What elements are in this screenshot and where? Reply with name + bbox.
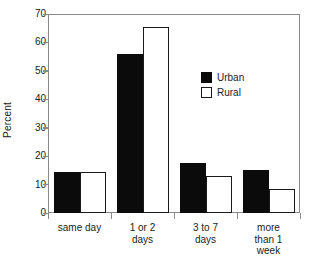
bar-rural-2 xyxy=(206,176,232,213)
x-axis-label-1: 1 or 2days xyxy=(111,222,174,245)
x-axis-label-line: days xyxy=(174,234,237,246)
x-axis-label-line: 1 or 2 xyxy=(111,222,174,234)
x-axis-label-line: 3 to 7 xyxy=(174,222,237,234)
bar-urban-0 xyxy=(54,172,80,213)
legend-label-urban: Urban xyxy=(217,72,244,83)
x-axis-label-2: 3 to 7days xyxy=(174,222,237,245)
y-axis-tick-label: 70 xyxy=(0,8,46,20)
x-axis-tick-mark xyxy=(237,213,238,219)
y-axis-tick-label: 30 xyxy=(0,122,46,134)
bar-urban-3 xyxy=(243,170,269,213)
x-axis-tick-mark xyxy=(111,213,112,219)
x-axis-label-line: days xyxy=(111,234,174,246)
x-axis-tick-mark xyxy=(300,213,301,219)
legend-swatch-rural-icon xyxy=(201,87,212,98)
legend: Urban Rural xyxy=(201,71,244,101)
legend-item-rural: Rural xyxy=(201,86,244,99)
x-axis-label-line: week xyxy=(237,245,300,257)
x-axis-label-3: morethan 1week xyxy=(237,222,300,257)
y-axis-tick-label: 60 xyxy=(0,36,46,48)
y-axis-tick-label: 20 xyxy=(0,150,46,162)
y-axis-tick-label: 50 xyxy=(0,65,46,77)
legend-label-rural: Rural xyxy=(217,87,241,98)
bar-urban-1 xyxy=(117,54,143,213)
x-axis-tick-mark xyxy=(174,213,175,219)
x-axis-label-line: same day xyxy=(48,222,111,234)
bars-layer xyxy=(48,14,300,213)
x-axis-label-line: than 1 xyxy=(237,234,300,246)
bar-rural-1 xyxy=(143,27,169,213)
y-axis-tick-label: 10 xyxy=(0,179,46,191)
x-axis-label-0: same day xyxy=(48,222,111,234)
bar-chart: Percent 010203040506070 same day1 or 2da… xyxy=(0,0,330,264)
legend-item-urban: Urban xyxy=(201,71,244,84)
bar-urban-2 xyxy=(180,163,206,213)
y-axis-tick-label: 40 xyxy=(0,93,46,105)
bar-rural-3 xyxy=(269,189,295,213)
y-axis-tick-label: 0 xyxy=(0,207,46,219)
bar-rural-0 xyxy=(80,172,106,213)
legend-swatch-urban-icon xyxy=(201,72,212,83)
x-axis-label-line: more xyxy=(237,222,300,234)
x-axis-tick-mark xyxy=(48,213,49,219)
